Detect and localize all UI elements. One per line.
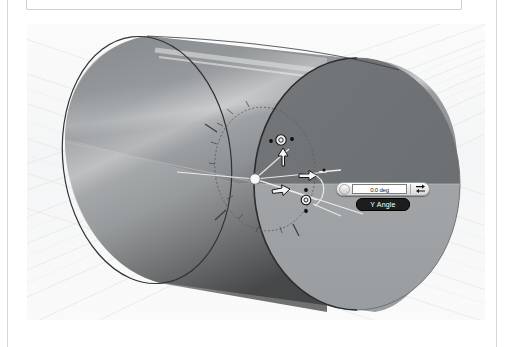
y-angle-input-widget[interactable]: 0.0 deg Y Angle: [336, 182, 430, 211]
angle-field-row[interactable]: 0.0 deg: [336, 182, 430, 196]
y-angle-input[interactable]: 0.0 deg: [352, 184, 407, 194]
page-left-rule: [7, 0, 8, 347]
page-root: 0.0 deg Y Angle: [0, 0, 510, 347]
flip-direction-button[interactable]: [414, 184, 427, 195]
y-angle-label: Y Angle: [356, 198, 410, 211]
cad-3d-viewport[interactable]: 0.0 deg Y Angle: [27, 24, 485, 320]
flip-direction-icon: [415, 184, 426, 194]
field-separator: [410, 184, 411, 194]
page-right-rule: [496, 0, 497, 347]
document-card-above: [26, 0, 462, 10]
drag-grip-handle[interactable]: [339, 184, 350, 195]
cylinder-solid[interactable]: [27, 24, 485, 320]
